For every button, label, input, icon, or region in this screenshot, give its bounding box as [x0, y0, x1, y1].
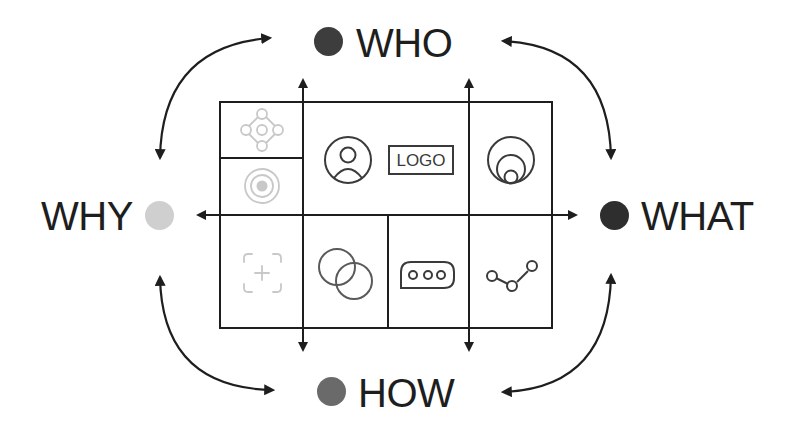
why-dot [145, 201, 174, 230]
line-graph-icon [487, 261, 537, 291]
network-nodes-icon [241, 109, 283, 151]
logo-box: LOGO [389, 146, 453, 174]
what-label: WHAT [641, 196, 754, 236]
why-label: WHY [41, 196, 133, 236]
curved-arrow-what-who [503, 41, 611, 158]
who-label: WHO [356, 23, 452, 63]
curved-arrow-why-who [160, 38, 270, 158]
overlapping-circles-icon [319, 249, 372, 299]
how-dot [317, 377, 346, 406]
curved-arrow-why-how [160, 277, 273, 390]
user-avatar-icon [325, 137, 371, 183]
nested-circles-icon [488, 137, 534, 184]
who-dot [314, 27, 343, 56]
chat-bubble-icon [401, 262, 454, 288]
what-dot [600, 201, 629, 230]
how-label: HOW [358, 373, 454, 413]
logo-text: LOGO [396, 151, 445, 170]
target-icon [245, 169, 279, 203]
curved-arrow-what-how [503, 275, 611, 392]
add-frame-icon [244, 254, 281, 292]
